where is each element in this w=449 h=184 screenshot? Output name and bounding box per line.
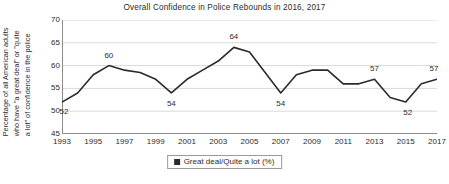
x-tick-label: 1993	[53, 138, 71, 146]
legend-label: Great deal/Quite a lot (%)	[184, 158, 275, 166]
x-axis-tick-labels: 1993199519971999200120032005200720092011…	[62, 138, 437, 150]
y-tick-label: 60	[40, 62, 60, 70]
x-tick-label: 2007	[272, 138, 290, 146]
legend-marker-square-icon	[174, 159, 180, 165]
chart-legend: Great deal/Quite a lot (%)	[167, 155, 283, 169]
chart-figure: Overall Confidence in Police Rebounds in…	[0, 0, 449, 184]
axis-tick-marks	[62, 20, 437, 134]
x-tick-label: 2005	[241, 138, 259, 146]
x-tick-label: 2009	[303, 138, 321, 146]
y-axis-tick-labels: 455055606570	[40, 20, 60, 134]
x-tick-label: 1995	[84, 138, 102, 146]
x-tick-label: 1999	[147, 138, 165, 146]
x-tick-label: 2001	[178, 138, 196, 146]
y-tick-label: 70	[40, 16, 60, 24]
x-tick-label: 2011	[335, 138, 352, 146]
gridlines	[62, 20, 437, 111]
y-tick-label: 50	[40, 107, 60, 115]
y-axis-label-line-3: a lot" of confidence in the police	[24, 33, 31, 136]
y-axis-label-line-2: who have "a great deal" or "quite	[13, 30, 20, 136]
chart-plot-svg	[62, 20, 437, 134]
data-series-lines	[62, 47, 437, 102]
x-tick-label: 2017	[428, 138, 446, 146]
axis-lines	[62, 20, 437, 134]
x-tick-label: 2013	[366, 138, 384, 146]
y-axis-label: Percentage of all American adults who ha…	[0, 14, 40, 136]
x-tick-label: 1997	[116, 138, 134, 146]
series-line	[62, 47, 437, 102]
y-axis-label-line-1: Percentage of all American adults	[2, 27, 9, 136]
y-tick-label: 65	[40, 39, 60, 47]
chart-title: Overall Confidence in Police Rebounds in…	[0, 3, 449, 12]
y-tick-label: 55	[40, 84, 60, 92]
x-tick-label: 2003	[209, 138, 227, 146]
plot-area	[62, 20, 437, 134]
x-tick-label: 2015	[397, 138, 415, 146]
